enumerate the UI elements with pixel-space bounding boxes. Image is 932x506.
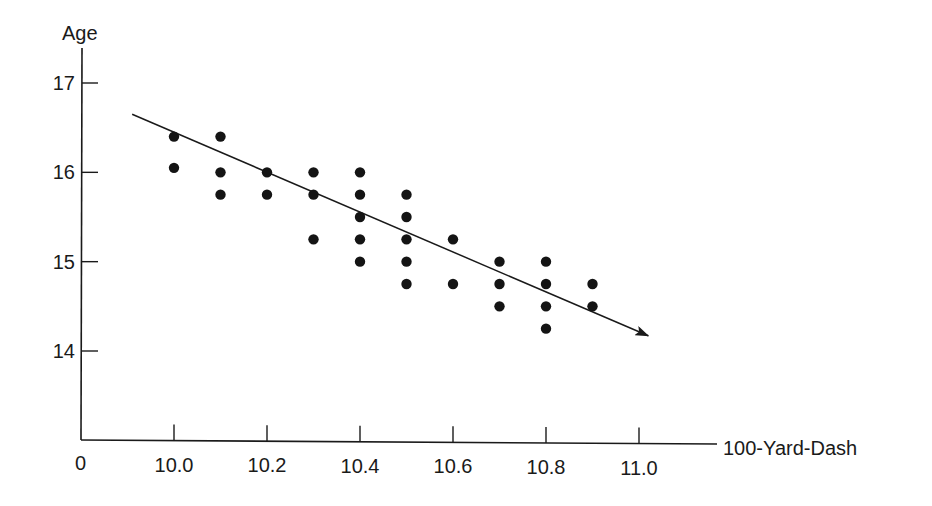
data-point (401, 189, 411, 199)
data-point (355, 167, 365, 177)
data-point (587, 279, 597, 289)
data-point (215, 167, 225, 177)
data-point (169, 163, 179, 173)
data-point (401, 256, 411, 266)
chart-canvas: 14151617 10.010.210.410.610.811.0 Age 10… (0, 0, 932, 506)
data-point (215, 131, 225, 141)
data-point (308, 167, 318, 177)
y-tick-label: 15 (53, 251, 75, 273)
data-point (494, 301, 504, 311)
data-point (541, 256, 551, 266)
y-axis (81, 48, 82, 440)
data-point (494, 256, 504, 266)
x-tick-label: 10.8 (527, 456, 566, 478)
data-point (262, 167, 272, 177)
data-point (355, 212, 365, 222)
x-tick-label: 11.0 (620, 457, 657, 479)
data-point (355, 234, 365, 244)
x-axis-label: 100-Yard-Dash (723, 437, 857, 459)
origin-label: 0 (75, 452, 86, 474)
data-point (587, 301, 597, 311)
data-points (169, 131, 598, 333)
data-point (308, 189, 318, 199)
data-point (401, 212, 411, 222)
x-tick-label: 10.2 (248, 454, 287, 476)
x-tick-label: 10.4 (341, 455, 380, 477)
y-axis-label: Age (62, 22, 98, 44)
data-point (169, 131, 179, 141)
data-point (448, 234, 458, 244)
data-point (541, 323, 551, 333)
data-point (494, 279, 504, 289)
axes (81, 48, 717, 444)
x-ticks: 10.010.210.410.610.811.0 (155, 425, 658, 479)
data-point (215, 189, 225, 199)
data-point (541, 279, 551, 289)
data-point (308, 234, 318, 244)
y-tick-label: 14 (53, 340, 75, 362)
data-point (401, 234, 411, 244)
data-point (401, 279, 411, 289)
data-point (355, 189, 365, 199)
data-point (262, 189, 272, 199)
y-tick-label: 16 (53, 161, 75, 183)
data-point (541, 301, 551, 311)
data-point (355, 256, 365, 266)
x-axis (81, 440, 717, 444)
scatter-chart: 14151617 10.010.210.410.610.811.0 Age 10… (0, 0, 932, 506)
y-tick-label: 17 (53, 72, 75, 94)
x-tick-label: 10.0 (155, 454, 194, 476)
data-point (448, 279, 458, 289)
trend-arrow-line (132, 114, 648, 336)
y-ticks: 14151617 (53, 72, 98, 362)
x-tick-label: 10.6 (434, 455, 473, 477)
